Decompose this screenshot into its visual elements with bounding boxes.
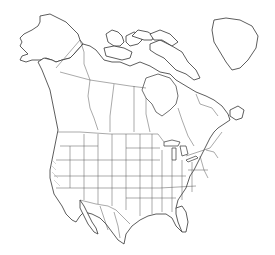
- newfoundland: [230, 106, 244, 120]
- lake-michigan: [172, 148, 176, 160]
- victoria-island: [104, 46, 132, 60]
- north-america-outline-map: [0, 0, 275, 255]
- greenland-edge: [212, 18, 258, 70]
- arctic-island-1: [106, 30, 124, 46]
